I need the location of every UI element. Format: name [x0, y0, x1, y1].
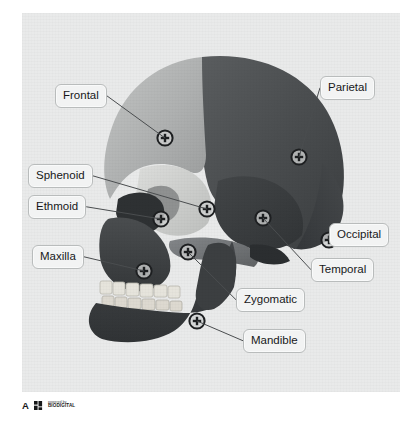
attribution-text: powered by BIODIGITAL	[48, 401, 75, 409]
panel-letter: A	[22, 400, 29, 411]
marker-maxilla[interactable]	[136, 263, 151, 278]
label-maxilla[interactable]: Maxilla	[32, 245, 84, 269]
marker-temporal[interactable]	[255, 210, 270, 225]
label-zygomatic[interactable]: Zygomatic	[236, 288, 305, 312]
label-occipital[interactable]: Occipital	[329, 223, 389, 247]
marker-ethmoid[interactable]	[153, 211, 168, 226]
marker-parietal[interactable]	[291, 149, 306, 164]
label-frontal[interactable]: Frontal	[55, 84, 107, 108]
label-temporal[interactable]: Temporal	[311, 258, 374, 282]
marker-frontal[interactable]	[157, 130, 172, 145]
figure-footer: A powered by BIODIGITAL	[22, 396, 75, 414]
label-ethmoid[interactable]: Ethmoid	[28, 195, 86, 219]
figure-root: FrontalParietalSphenoidEthmoidMaxillaOcc…	[0, 0, 420, 433]
label-mandible[interactable]: Mandible	[243, 329, 306, 353]
label-parietal[interactable]: Parietal	[320, 76, 375, 100]
label-sphenoid[interactable]: Sphenoid	[28, 164, 93, 188]
attribution-line-2: BIODIGITAL	[48, 404, 75, 409]
marker-sphenoid[interactable]	[199, 201, 214, 216]
marker-zygomatic[interactable]	[180, 244, 195, 259]
marker-mandible[interactable]	[189, 313, 204, 328]
biodigital-logo-icon	[34, 401, 43, 410]
